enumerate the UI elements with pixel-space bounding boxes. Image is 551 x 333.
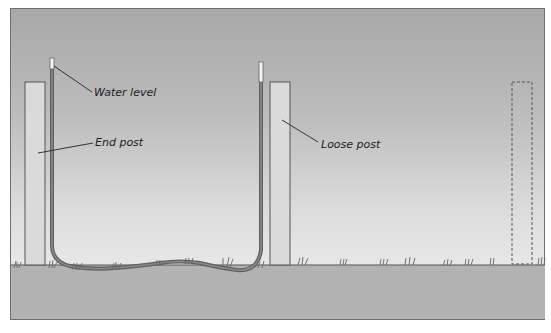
plumb-post-outline: [512, 82, 532, 264]
label-end-post: End post: [95, 136, 143, 149]
label-water-level: Water level: [94, 86, 156, 99]
water-level-diagram: [0, 0, 551, 333]
right-tube-top: [259, 62, 263, 82]
label-loose-post: Loose post: [321, 138, 380, 151]
loose-post: [270, 82, 290, 265]
end-post: [25, 82, 45, 265]
water-tube-inner: [52, 69, 261, 270]
left-tube-top: [50, 58, 54, 69]
water-tube: [52, 69, 261, 270]
leader-water-level: [54, 66, 92, 92]
leader-end-post: [38, 143, 93, 153]
ground: [11, 265, 545, 319]
